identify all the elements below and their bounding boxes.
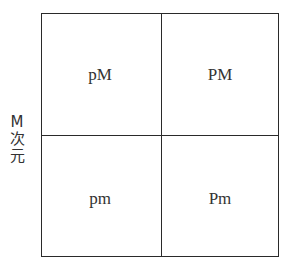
- matrix-grid: [41, 13, 279, 257]
- axis-label-char-ji: 次: [9, 131, 25, 148]
- cell-top-right-label: PM: [208, 65, 233, 85]
- horizontal-divider: [41, 135, 279, 136]
- axis-label-char-m: M: [9, 114, 25, 131]
- cell-bottom-right-label: Pm: [209, 189, 232, 209]
- m-dimension-axis-label: M 次 元: [9, 114, 25, 165]
- axis-label-char-gen: 元: [9, 148, 25, 165]
- cell-bottom-left-label: pm: [89, 189, 111, 209]
- cell-top-left-label: pM: [88, 65, 112, 85]
